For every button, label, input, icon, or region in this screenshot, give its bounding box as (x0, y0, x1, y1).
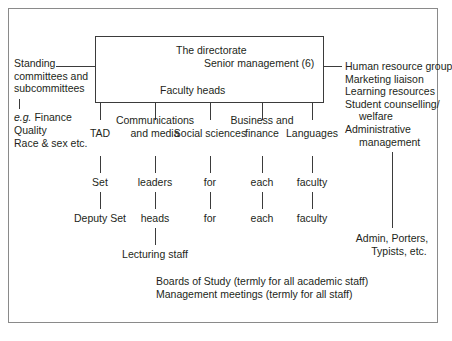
connector-administrative-to-support (392, 152, 393, 228)
connector-col-2-row2 (155, 192, 156, 209)
connector-col-5-row2 (312, 192, 313, 209)
senior-management-label: Senior management (6) (204, 57, 314, 69)
right-item-administrative: Administrative (345, 123, 452, 136)
connector-col-1-row1 (100, 156, 101, 173)
row2-cell-languages: faculty (269, 212, 355, 225)
connector-committee-examples (19, 99, 20, 109)
connector-col-3-top (210, 103, 211, 120)
example-finance-label: Finance (34, 111, 71, 123)
standing-committees-heading: Standing committees and subcommittees (14, 57, 106, 95)
right-item-human-resource: Human resource group (345, 60, 452, 73)
example-quality: Quality (14, 124, 47, 137)
right-item-student-counselling: Student counselling/ (345, 98, 452, 111)
column-label-languages: Languages (269, 127, 355, 140)
lecturing-staff-label: Lecturing staff (112, 248, 198, 261)
support-staff-line-1: Admin, Porters, (342, 232, 442, 245)
connector-lecturing-staff (155, 228, 156, 245)
connector-col-1-top (100, 103, 101, 120)
right-item-management: management (345, 136, 452, 149)
connector-right-panel (324, 66, 342, 67)
directorate-box: The directorate Senior management (6) Fa… (95, 36, 324, 103)
connector-col-2-row1 (155, 156, 156, 173)
footer-note-management-meetings: Management meetings (termly for all staf… (156, 288, 352, 301)
connector-col-5-row1 (312, 156, 313, 173)
connector-col-3-row1 (210, 156, 211, 173)
example-prefix: e.g. (14, 111, 32, 123)
connector-col-1-row2 (100, 192, 101, 209)
right-item-learning-resources: Learning resources (345, 85, 452, 98)
right-item-welfare: welfare (345, 110, 452, 123)
directorate-title: The directorate (176, 44, 247, 56)
support-staff-line-2: Typists, etc. (342, 245, 442, 258)
connector-col-4-row1 (262, 156, 263, 173)
faculty-heads-label: Faculty heads (160, 84, 225, 96)
connector-col-3-row2 (210, 192, 211, 209)
right-item-marketing-liaison: Marketing liaison (345, 73, 452, 86)
right-panel-list: Human resource group Marketing liaison L… (345, 60, 452, 148)
connector-col-5-top (312, 103, 313, 120)
example-finance: e.g. Finance (14, 111, 72, 124)
connector-col-4-row2 (262, 192, 263, 209)
connector-standing-committees (56, 66, 95, 67)
support-staff-block: Admin, Porters, Typists, etc. (342, 232, 442, 257)
row1-cell-languages: faculty (269, 176, 355, 189)
footer-note-boards-of-study: Boards of Study (termly for all academic… (156, 275, 368, 288)
